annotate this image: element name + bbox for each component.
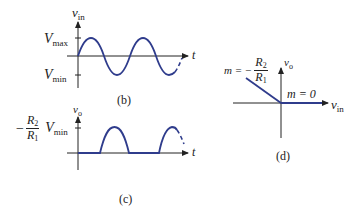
- panel-c-tick-label: − R2 R1 Vmin: [16, 114, 68, 143]
- panel-c-caption: (c): [119, 193, 132, 205]
- panel-c-rectified-curve: [78, 127, 177, 153]
- panel-d-negative-slope-label: m = − R2 R1: [224, 56, 268, 85]
- panel-b-graph: [67, 22, 188, 88]
- panel-d-x-axis-label: vin: [331, 98, 344, 114]
- r2-over-r1-fraction: R2 R1: [254, 56, 267, 85]
- panel-b-y-axis-label: vin: [72, 6, 85, 22]
- panel-d-zero-slope-label: m = 0: [287, 88, 316, 100]
- panel-b-x-axis-label: t: [192, 49, 195, 61]
- panel-c-x-axis-label: t: [192, 146, 195, 158]
- panel-b-caption: (b): [117, 94, 131, 106]
- panel-b-vmax-label: Vmax: [44, 32, 68, 48]
- panel-c-continuation: [177, 130, 184, 144]
- panel-c-y-axis-label: vo: [73, 104, 82, 118]
- minus-sign: −: [16, 122, 24, 136]
- panel-d-caption: (d): [276, 150, 290, 162]
- panel-b-sine-continuation: [175, 58, 182, 72]
- panel-d-y-axis-label: vo: [284, 57, 293, 71]
- panel-c-graph: [67, 117, 188, 170]
- r2-over-r1-fraction: R2 R1: [26, 114, 39, 143]
- panel-b-vmin-label: Vmin: [44, 68, 67, 84]
